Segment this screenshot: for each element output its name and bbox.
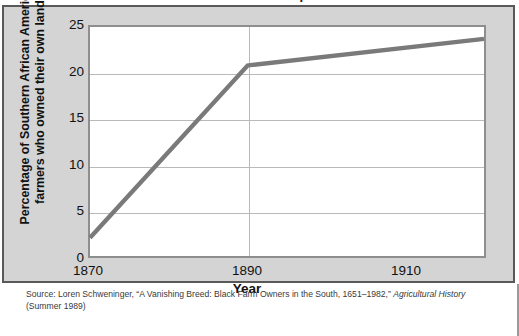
chart-panel: Percentage of Southern African American … [2, 5, 515, 283]
chart-figure: Landownership Percentage of Southern Afr… [0, 0, 519, 336]
y-tick-label: 25 [44, 18, 84, 32]
plot-area [88, 25, 486, 258]
source-note-date: (Summer 1989) [26, 301, 86, 311]
y-axis-ticks: 25 20 15 10 5 0 [40, 25, 84, 258]
y-tick-label: 10 [44, 158, 84, 172]
y-tick-label: 5 [44, 204, 84, 218]
x-tick-label: 1910 [361, 263, 451, 278]
source-note-journal: Agricultural History [393, 289, 465, 299]
y-tick-label: 15 [44, 111, 84, 125]
source-note-text: Source: Loren Schweninger, “A Vanishing … [26, 289, 393, 299]
y-tick-label: 20 [44, 65, 84, 79]
source-note: Source: Loren Schweninger, “A Vanishing … [26, 289, 496, 312]
x-tick-label: 1870 [43, 263, 133, 278]
x-tick-label: 1890 [202, 263, 292, 278]
y-axis-title-line1: Percentage of Southern African American [18, 0, 32, 224]
data-series-line [90, 27, 484, 256]
plot-inner [90, 27, 484, 256]
chart-title-text: Landownership [0, 0, 519, 2]
